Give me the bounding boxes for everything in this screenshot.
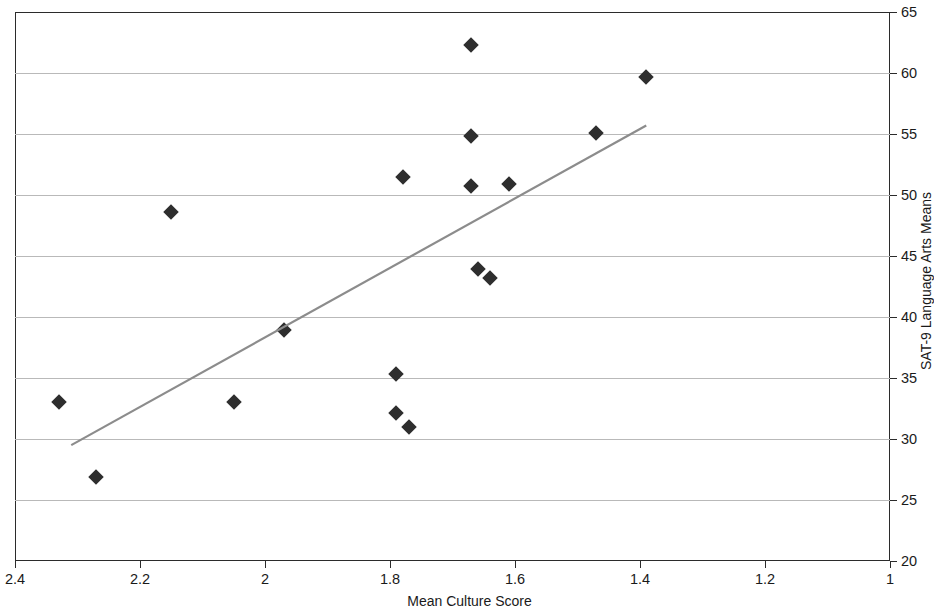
x-axis-title: Mean Culture Score [0, 593, 939, 609]
data-point [463, 37, 479, 53]
data-point [638, 69, 654, 85]
y-tick-mark [890, 317, 897, 318]
data-point [388, 367, 404, 383]
gridline [15, 439, 890, 440]
plot-area [15, 12, 890, 561]
y-tick-mark [890, 134, 897, 135]
y-tick-mark [890, 256, 897, 257]
y-tick-mark [890, 439, 897, 440]
y-tick-mark [890, 500, 897, 501]
y-tick-mark [890, 73, 897, 74]
x-tick-label: 1.2 [755, 572, 775, 587]
data-point [88, 469, 104, 485]
x-tick-mark [640, 561, 641, 568]
y-tick-mark [890, 12, 897, 13]
gridline [15, 73, 890, 74]
gridline [15, 195, 890, 196]
data-point [482, 270, 498, 286]
data-point [388, 406, 404, 422]
data-point [163, 204, 179, 220]
x-tick-label: 2.2 [130, 572, 150, 587]
data-point [276, 323, 292, 339]
x-tick-mark [515, 561, 516, 568]
x-tick-mark [15, 561, 16, 568]
data-point [588, 125, 604, 141]
data-point [470, 262, 486, 278]
gridline [15, 256, 890, 257]
data-point [463, 129, 479, 145]
x-tick-mark [265, 561, 266, 568]
gridline [15, 378, 890, 379]
x-tick-mark [765, 561, 766, 568]
x-tick-label: 1.8 [380, 572, 400, 587]
y-axis-title-label: SAT-9 Language Arts Means [918, 192, 934, 370]
y-axis-title: SAT-9 Language Arts Means [912, 0, 939, 561]
x-tick-mark [890, 561, 891, 568]
scatter-chart: 20253035404550556065 2.42.221.81.61.41.2… [0, 0, 939, 611]
data-point [51, 395, 67, 411]
y-tick-mark [890, 195, 897, 196]
x-tick-label: 1.4 [630, 572, 650, 587]
y-tick-mark [890, 561, 897, 562]
gridline [15, 134, 890, 135]
data-point [501, 176, 517, 192]
x-tick-label: 2.4 [5, 572, 25, 587]
gridline [15, 317, 890, 318]
x-tick-label: 1.6 [505, 572, 525, 587]
data-point [226, 395, 242, 411]
x-tick-mark [390, 561, 391, 568]
x-tick-label: 1 [886, 572, 894, 587]
y-tick-mark [890, 378, 897, 379]
data-point [395, 169, 411, 185]
gridline [15, 500, 890, 501]
data-point [463, 179, 479, 195]
data-point [401, 419, 417, 435]
x-tick-mark [140, 561, 141, 568]
x-tick-label: 2 [261, 572, 269, 587]
